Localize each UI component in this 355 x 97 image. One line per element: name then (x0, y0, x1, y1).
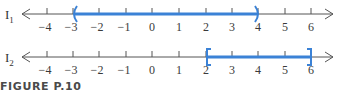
svg-text:5: 5 (282, 20, 288, 34)
tick-labels-2: −4−3 −2−1 01 23 45 6 (39, 63, 314, 77)
svg-text:2: 2 (203, 20, 209, 34)
svg-text:−2: −2 (91, 63, 104, 77)
svg-text:6: 6 (308, 63, 314, 77)
svg-text:4: 4 (255, 63, 261, 77)
svg-text:0: 0 (149, 20, 155, 34)
svg-text:5: 5 (282, 63, 288, 77)
svg-text:−4: −4 (39, 20, 52, 34)
svg-text:0: 0 (149, 63, 155, 77)
svg-text:1: 1 (176, 20, 182, 34)
line-2-label: I2 (5, 50, 14, 68)
svg-text:−1: −1 (118, 20, 131, 34)
number-line-2: I2 −4−3 −2−1 01 23 45 6 (5, 49, 333, 77)
svg-text:−4: −4 (39, 63, 52, 77)
svg-text:4: 4 (255, 20, 261, 34)
figure-caption: FIGURE P.10 (0, 80, 82, 93)
svg-text:1: 1 (176, 63, 182, 77)
line-1-label: I1 (5, 7, 14, 25)
svg-text:6: 6 (308, 20, 314, 34)
svg-text:2: 2 (203, 63, 209, 77)
svg-text:−3: −3 (65, 63, 78, 77)
number-line-1: I1 −4−3 −2−1 01 23 45 6 (5, 6, 333, 34)
svg-text:−1: −1 (118, 63, 131, 77)
svg-text:−2: −2 (91, 20, 104, 34)
svg-text:3: 3 (229, 63, 235, 77)
svg-text:−3: −3 (65, 20, 78, 34)
svg-text:3: 3 (229, 20, 235, 34)
tick-labels-1: −4−3 −2−1 01 23 45 6 (39, 20, 314, 34)
